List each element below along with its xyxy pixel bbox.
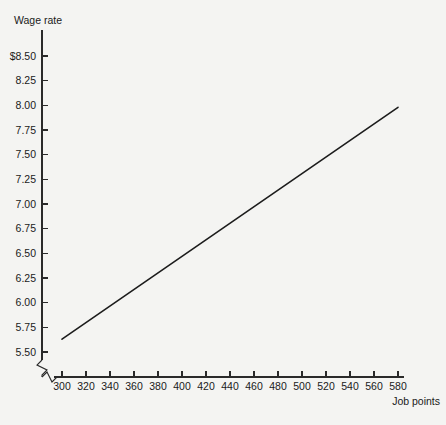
y-tick-label: $8.50: [10, 50, 36, 62]
x-tick-label: 480: [269, 380, 287, 392]
x-tick-label: 540: [341, 380, 359, 392]
x-tick-label: 340: [101, 380, 119, 392]
y-tick-label: 7.75: [16, 124, 37, 136]
x-tick-label: 400: [173, 380, 191, 392]
y-tick-label: 8.25: [16, 74, 37, 86]
x-tick-label: 560: [365, 380, 383, 392]
y-tick-label: 5.50: [16, 346, 37, 358]
y-tick-label: 7.25: [16, 173, 37, 185]
y-tick-label: 6.00: [16, 296, 37, 308]
y-axis-title: Wage rate: [14, 14, 62, 26]
x-axis: 3003203403603804004204404604805005205405…: [42, 371, 407, 392]
y-tick-label: 6.25: [16, 272, 37, 284]
y-axis-break-mark: [37, 360, 47, 377]
chart-page: 5.505.756.006.256.506.757.007.257.507.75…: [0, 0, 446, 425]
x-tick-label: 360: [125, 380, 143, 392]
x-tick-label: 460: [245, 380, 263, 392]
y-tick-label: 8.00: [16, 99, 37, 111]
y-tick-label: 5.75: [16, 321, 37, 333]
x-tick-label: 320: [77, 380, 95, 392]
x-tick-label: 420: [197, 380, 215, 392]
series-line-wage-line: [62, 107, 398, 339]
x-tick-label: 300: [53, 380, 71, 392]
y-axis: 5.505.756.006.256.506.757.007.257.507.75…: [10, 30, 48, 377]
y-tick-label: 6.50: [16, 247, 37, 259]
y-tick-label: 7.50: [16, 148, 37, 160]
x-axis-title: Job points: [392, 395, 440, 407]
x-tick-label: 500: [293, 380, 311, 392]
x-tick-label: 380: [149, 380, 167, 392]
y-tick-label: 7.00: [16, 198, 37, 210]
x-tick-label: 520: [317, 380, 335, 392]
wage-rate-vs-job-points-chart: 5.505.756.006.256.506.757.007.257.507.75…: [0, 0, 446, 425]
data-series-group: [62, 107, 398, 339]
y-tick-label: 6.75: [16, 222, 37, 234]
x-tick-label: 440: [221, 380, 239, 392]
x-tick-label: 580: [389, 380, 407, 392]
